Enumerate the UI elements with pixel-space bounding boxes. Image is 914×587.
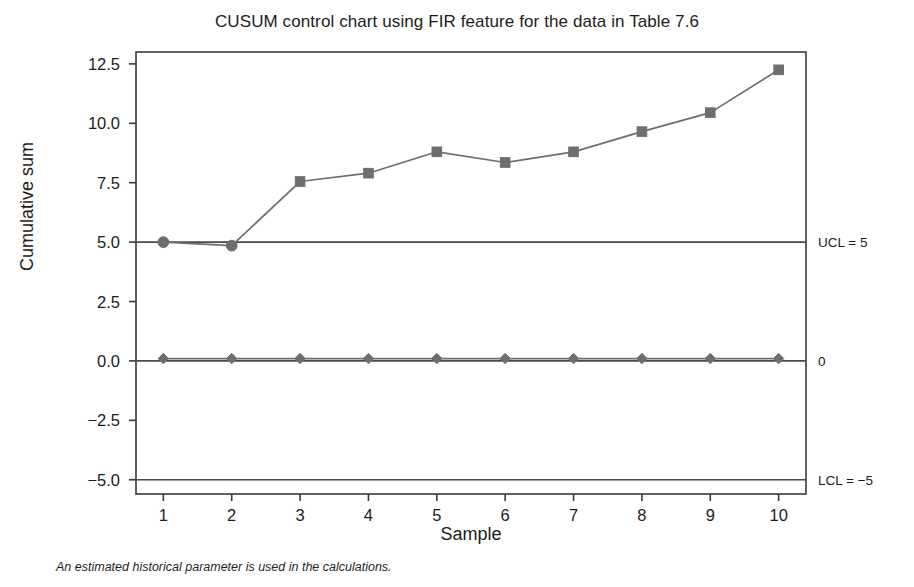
limit-label-center: 0 <box>818 353 826 368</box>
x-axis-tick-label: 4 <box>348 506 388 525</box>
x-axis-tick-label: 5 <box>417 506 457 525</box>
data-point-marker <box>158 237 169 248</box>
y-axis-tick-label: 2.5 <box>50 292 120 311</box>
data-point-marker <box>226 240 237 251</box>
x-axis-tick-label: 2 <box>212 506 252 525</box>
x-axis-tick-label: 7 <box>554 506 594 525</box>
data-point-marker <box>363 353 373 363</box>
data-point-marker <box>227 353 237 363</box>
y-axis-tick-label: −2.5 <box>50 411 120 430</box>
data-point-marker <box>637 127 647 137</box>
data-point-marker <box>569 147 579 157</box>
limit-label-ucl: UCL = 5 <box>818 235 867 250</box>
x-axis-tick-label: 10 <box>759 506 799 525</box>
y-axis-tick-label: 10.0 <box>50 114 120 133</box>
limit-label-lcl: LCL = −5 <box>818 472 873 487</box>
data-point-marker <box>774 65 784 75</box>
x-axis-tick-label: 1 <box>143 506 183 525</box>
x-axis-tick-label: 6 <box>485 506 525 525</box>
data-point-marker <box>705 353 715 363</box>
data-point-marker <box>568 353 578 363</box>
data-point-marker <box>364 168 374 178</box>
y-axis-tick-label: 7.5 <box>50 173 120 192</box>
x-axis-tick-label: 3 <box>280 506 320 525</box>
y-axis-label: Cumulative sum <box>17 117 38 297</box>
data-point-marker <box>500 158 510 168</box>
cusum-chart-figure: CUSUM control chart using FIR feature fo… <box>0 0 914 587</box>
y-axis-tick-label: 5.0 <box>50 233 120 252</box>
data-point-marker <box>705 108 715 118</box>
plot-frame <box>136 52 806 494</box>
data-point-marker <box>432 353 442 363</box>
chart-footnote: An estimated historical parameter is use… <box>56 560 392 574</box>
data-point-marker <box>637 353 647 363</box>
data-point-marker <box>500 353 510 363</box>
y-axis-tick-label: −5.0 <box>50 470 120 489</box>
x-axis-tick-label: 8 <box>622 506 662 525</box>
x-axis-label: Sample <box>136 524 806 545</box>
x-axis-tick-label: 9 <box>690 506 730 525</box>
y-axis-tick-label: 0.0 <box>50 351 120 370</box>
plot-area <box>0 0 914 587</box>
series-line-1 <box>163 70 778 246</box>
data-point-marker <box>773 353 783 363</box>
data-point-marker <box>295 353 305 363</box>
data-point-marker <box>158 353 168 363</box>
chart-title: CUSUM control chart using FIR feature fo… <box>0 12 914 32</box>
y-axis-tick-label: 12.5 <box>50 54 120 73</box>
data-point-marker <box>432 147 442 157</box>
data-point-marker <box>295 177 305 187</box>
